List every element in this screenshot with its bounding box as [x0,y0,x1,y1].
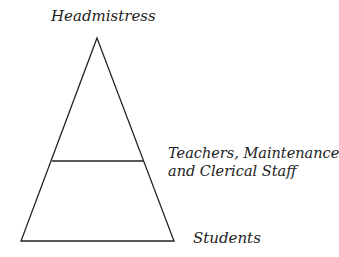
label-students: Students [193,229,261,247]
label-staff-line2: and Clerical Staff [168,162,296,180]
label-staff-line1: Teachers, Maintenance [168,144,339,162]
label-headmistress: Headmistress [51,7,156,25]
pyramid-outline [21,38,174,241]
